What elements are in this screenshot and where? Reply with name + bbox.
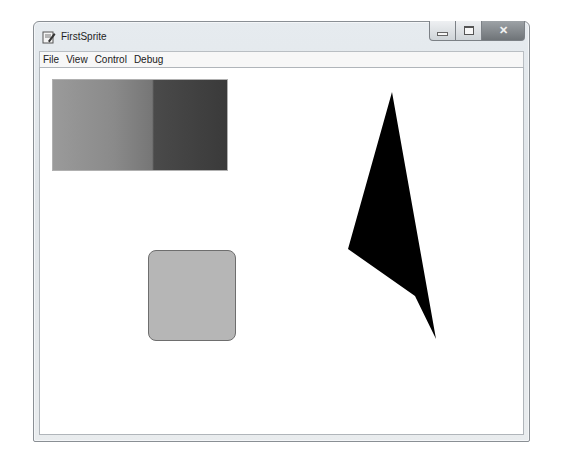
menu-debug[interactable]: Debug — [131, 52, 167, 67]
app-document-pen-icon — [42, 30, 56, 44]
close-icon: ✕ — [499, 24, 508, 37]
window-title: FirstSprite — [61, 31, 107, 42]
sprite-canvas[interactable] — [39, 67, 524, 435]
minimize-button[interactable] — [429, 21, 456, 41]
title-bar[interactable]: FirstSprite ✕ — [34, 22, 529, 50]
menu-view[interactable]: View — [63, 52, 92, 67]
app-window: FirstSprite ✕ File View Control Debug — [33, 21, 530, 442]
menu-bar: File View Control Debug — [39, 51, 524, 67]
menu-file[interactable]: File — [40, 52, 63, 67]
maximize-button[interactable] — [456, 21, 482, 41]
minimize-icon — [437, 32, 448, 36]
menu-control[interactable]: Control — [92, 52, 131, 67]
black-polygon-sprite — [40, 68, 523, 434]
maximize-icon — [464, 26, 474, 35]
polygon-shape — [348, 92, 436, 339]
caption-buttons: ✕ — [429, 21, 525, 40]
close-button[interactable]: ✕ — [482, 21, 525, 41]
